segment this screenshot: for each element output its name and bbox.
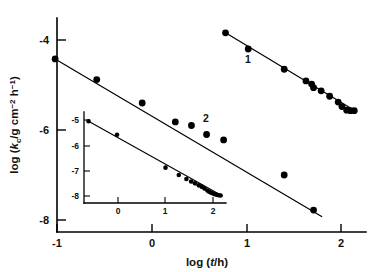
inset-x-tick-label-2: 2: [211, 206, 216, 216]
x-tick-label-1: 1: [244, 237, 250, 249]
main-axes: [57, 18, 366, 232]
inset-x-tick-label-0: 0: [116, 206, 121, 216]
datapoint: [222, 29, 229, 36]
y-axis-ticks: [57, 40, 66, 220]
x-axis-title-suffix: /h): [214, 256, 228, 268]
x-tick-label-0: 0: [149, 237, 155, 249]
inset-y-axis-tick-labels: -5 -6 -7 -8: [71, 115, 79, 201]
y-axis-title-close-paren: ): [8, 76, 20, 80]
x-axis-tick-labels: -1 0 1 2: [52, 237, 344, 249]
inset-y-tick-label--8: -8: [71, 191, 79, 201]
datapoint: [177, 173, 182, 178]
datapoint: [93, 76, 100, 83]
datapoint: [351, 107, 358, 114]
datapoint: [172, 119, 179, 126]
datapoint: [281, 172, 288, 179]
datapoint: [86, 119, 91, 124]
x-axis-title-prefix: log (: [186, 256, 210, 268]
inset-y-tick-label--5: -5: [71, 115, 79, 125]
inset-y-tick-label--6: -6: [71, 141, 79, 151]
y-axis-tick-labels: -4 -6 -8: [39, 34, 50, 226]
datapoint: [163, 165, 168, 170]
datapoint: [220, 137, 227, 144]
figure-container: -4 -6 -8 -1 0 1 2 log (t/h) log (kc/g cm…: [0, 0, 373, 272]
inset-y-axis-ticks: [84, 120, 90, 196]
y-axis-title-units-a: /g cm: [8, 109, 20, 139]
datapoint: [184, 177, 189, 182]
datapoint: [310, 84, 317, 91]
datapoint: [218, 193, 223, 198]
datapoint: [310, 207, 317, 214]
x-axis-ticks: [57, 224, 341, 232]
datapoint: [139, 100, 146, 107]
datapoint: [281, 66, 288, 73]
inset-y-tick-label--7: -7: [71, 166, 79, 176]
x-tick-label-2: 2: [338, 237, 344, 249]
y-tick-label--6: -6: [39, 124, 49, 136]
curve-2-label: 2: [203, 112, 209, 124]
datapoint: [318, 87, 325, 94]
y-axis-title: log (kc/g cm−2 h−1): [8, 76, 23, 174]
x-axis-title: log (t/h): [186, 256, 228, 268]
inset-x-axis-ticks: [118, 197, 213, 203]
curve-1-label: 1: [245, 53, 251, 65]
y-tick-label--8: -8: [39, 214, 49, 226]
datapoint: [52, 56, 59, 63]
inset-x-axis-tick-labels: 0 1 2: [116, 206, 216, 216]
datapoint: [115, 132, 120, 137]
inset-plot: -5 -6 -7 -8 0 1 2: [71, 112, 226, 216]
datapoint: [203, 131, 210, 138]
inset-x-tick-label-1: 1: [163, 206, 168, 216]
y-axis-title-prefix: log (: [8, 149, 20, 173]
datapoint: [245, 46, 252, 53]
datapoint: [326, 93, 333, 100]
y-tick-label--4: -4: [39, 34, 50, 46]
datapoint: [188, 122, 195, 129]
scatter-plot: -4 -6 -8 -1 0 1 2 log (t/h) log (kc/g cm…: [0, 0, 373, 272]
y-axis-title-units-b: h: [8, 89, 20, 99]
x-tick-label--1: -1: [52, 237, 62, 249]
